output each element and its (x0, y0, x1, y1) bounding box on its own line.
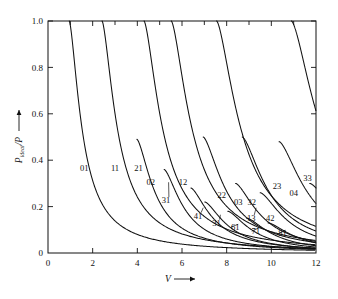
curve-label-71: 71 (251, 226, 260, 236)
curve-label-21: 21 (134, 163, 143, 173)
chart-plot-area: 02468101200.20.40.60.81.0 01112102311222… (0, 0, 338, 299)
plot-frame (48, 21, 316, 253)
curve-label-11: 11 (111, 163, 119, 173)
x-tick-label-8: 8 (224, 258, 229, 268)
curve-label-12: 12 (179, 177, 188, 187)
curve-label-33: 33 (303, 173, 312, 183)
curve-11 (102, 21, 315, 249)
curve-label-41: 41 (194, 211, 203, 221)
curve-label-04: 04 (289, 188, 298, 198)
curve-label-81: 81 (278, 228, 287, 238)
y-tick-label-1.0: 1.0 (32, 16, 44, 26)
y-tick-label-0.6: 0.6 (32, 109, 44, 119)
y-tick-label-0.8: 0.8 (32, 63, 44, 73)
curve-label-22: 22 (218, 190, 227, 200)
curve-03 (217, 21, 316, 226)
x-axis-arrow-head (190, 277, 195, 282)
x-tick-label-6: 6 (180, 258, 185, 268)
y-axis-title-subscript: ideal (19, 145, 25, 157)
curve-series-group (69, 21, 316, 250)
axis-tick-labels: 02468101200.20.40.60.81.0 (32, 16, 321, 268)
curve-02 (144, 21, 315, 245)
y-tick-label-0.4: 0.4 (32, 155, 44, 165)
axis-ticks (48, 21, 316, 253)
curve-label-01: 01 (80, 163, 89, 173)
y-axis-title-denominator: /P (14, 137, 24, 147)
curve-33 (310, 183, 316, 188)
x-tick-label-2: 2 (90, 258, 95, 268)
curve-04 (291, 21, 315, 111)
curve-label-31: 31 (162, 195, 171, 205)
curve-label-02: 02 (146, 177, 155, 187)
curve-label-42: 42 (266, 213, 275, 223)
x-axis-title: V (165, 274, 172, 284)
curve-label-13: 13 (247, 213, 256, 223)
x-tick-label-0: 0 (46, 258, 51, 268)
curve-label-31: 31 (212, 218, 221, 228)
curve-31 (205, 202, 316, 248)
curve-01 (69, 21, 314, 250)
y-axis-arrow-head (17, 110, 22, 115)
x-tick-label-10: 10 (267, 258, 277, 268)
y-tick-label-0: 0 (39, 248, 44, 258)
plot-frame-rect (48, 21, 316, 253)
y-axis-title-group: Pideal/P (14, 110, 25, 164)
x-tick-label-12: 12 (312, 258, 321, 268)
y-axis-title: Pideal/P (14, 137, 25, 164)
curve-label-32: 32 (247, 197, 256, 207)
x-tick-label-4: 4 (135, 258, 140, 268)
curve-label-03: 03 (234, 197, 243, 207)
y-tick-label-0.2: 0.2 (32, 202, 43, 212)
curve-label-61: 61 (231, 222, 240, 232)
chart-figure: 02468101200.20.40.60.81.0 01112102311222… (0, 0, 338, 299)
curve-12 (171, 21, 315, 240)
curve-label-23: 23 (273, 181, 282, 191)
